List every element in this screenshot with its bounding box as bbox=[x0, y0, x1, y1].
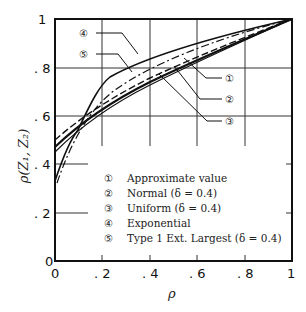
x-tick-02: . 2 bbox=[94, 266, 111, 281]
x-tick-04: . 4 bbox=[142, 266, 159, 281]
legend-label-4: Exponential bbox=[127, 217, 191, 229]
curve-approximate bbox=[55, 19, 292, 147]
curves bbox=[55, 19, 292, 183]
legend-label-5: Type 1 Ext. Largest (δ = 0.4) bbox=[127, 232, 282, 244]
callout-4: ④ bbox=[79, 28, 88, 39]
y-tick-04: . 4 bbox=[34, 157, 51, 172]
chart-figure: ④ ⑤ ① ② ③ 1 . 8 . 6 . 4 . 2 0 0 . 2 . 4 … bbox=[0, 0, 306, 312]
y-tick-06: . 6 bbox=[34, 109, 51, 124]
y-tick-08: . 8 bbox=[34, 61, 51, 76]
legend-num-5: ⑤ bbox=[104, 233, 113, 244]
x-tick-06: . 6 bbox=[189, 266, 206, 281]
curve-exponential bbox=[55, 19, 292, 181]
x-axis-label: ρ bbox=[167, 286, 176, 301]
legend-num-4: ④ bbox=[104, 218, 113, 229]
y-tick-1: 1 bbox=[38, 12, 46, 27]
x-tick-0: 0 bbox=[51, 266, 59, 281]
chart-canvas: ④ ⑤ ① ② ③ 1 . 8 . 6 . 4 . 2 0 0 . 2 . 4 … bbox=[0, 0, 306, 312]
legend-num-3: ③ bbox=[104, 203, 113, 214]
legend-num-1: ① bbox=[104, 173, 113, 184]
legend-num-2: ② bbox=[104, 188, 113, 199]
x-tick-08: . 8 bbox=[237, 266, 254, 281]
y-axis-label: ρ(Z₁, Z₂) bbox=[16, 129, 31, 185]
legend-label-2: Normal (δ = 0.4) bbox=[127, 187, 217, 199]
callout-3: ③ bbox=[225, 116, 234, 127]
x-tick-1: 1 bbox=[287, 266, 295, 281]
callout-5: ⑤ bbox=[79, 49, 88, 60]
curve-normal bbox=[55, 19, 292, 152]
callout-1: ① bbox=[225, 73, 234, 84]
legend-label-3: Uniform (δ = 0.4) bbox=[127, 202, 221, 214]
callout-2: ② bbox=[225, 94, 234, 105]
legend: ① Approximate value ② Normal (δ = 0.4) ③… bbox=[104, 172, 282, 244]
y-tick-02: . 2 bbox=[34, 206, 51, 221]
legend-label-1: Approximate value bbox=[126, 172, 227, 184]
